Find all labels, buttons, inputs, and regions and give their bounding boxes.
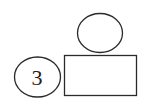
left-ellipse-label: 3 [32, 65, 43, 90]
rectangle [65, 56, 137, 96]
top-ellipse [78, 14, 123, 53]
diagram-canvas: 3 [0, 0, 144, 101]
